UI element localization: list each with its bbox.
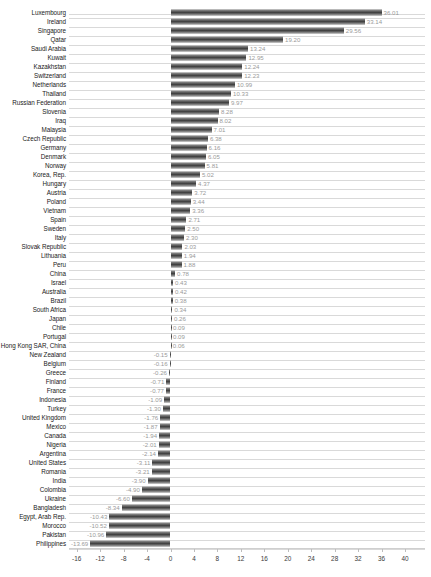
bar xyxy=(171,45,249,52)
axis-tick xyxy=(288,549,289,552)
category-label: Pakistan xyxy=(0,530,66,539)
bar xyxy=(171,180,197,187)
bar-value-label: 3.44 xyxy=(193,197,205,206)
bar xyxy=(166,378,170,385)
bar-value-label: 2.03 xyxy=(184,242,196,251)
category-label: Portugal xyxy=(0,332,66,341)
category-label: Denmark xyxy=(0,152,66,161)
bar-row: Ukraine-6.60 xyxy=(0,494,431,503)
axis-tick-label: 28 xyxy=(331,555,338,562)
category-label: Bangladesh xyxy=(0,503,66,512)
axis-tick-label: 12 xyxy=(237,555,244,562)
bar-row: Switzerland12.23 xyxy=(0,71,431,80)
bar xyxy=(148,477,171,484)
bar xyxy=(171,81,235,88)
bar xyxy=(171,333,172,340)
bar-value-label: 29.56 xyxy=(346,26,361,35)
axis-tick-label: 24 xyxy=(308,555,315,562)
category-label: Brazil xyxy=(0,296,66,305)
bar-row: Morocco-10.52 xyxy=(0,521,431,530)
bar xyxy=(160,423,171,430)
bar-row: Lithuania1.94 xyxy=(0,251,431,260)
bar-value-label: -0.77 xyxy=(150,386,164,395)
bar-row: Malaysia7.01 xyxy=(0,125,431,134)
bar xyxy=(171,261,182,268)
bar xyxy=(132,495,171,502)
category-label: Greece xyxy=(0,368,66,377)
axis-tick-label: -12 xyxy=(96,555,105,562)
bar-value-label: -10.96 xyxy=(87,530,104,539)
bar-value-label: -10.43 xyxy=(90,512,107,521)
bar-value-label: -0.15 xyxy=(154,350,168,359)
bar-row: Slovenia8.28 xyxy=(0,107,431,116)
bar xyxy=(158,450,171,457)
bar-row: Argentina-2.14 xyxy=(0,449,431,458)
bar-row: United States-3.11 xyxy=(0,458,431,467)
bar xyxy=(171,198,191,205)
plot-area: Luxembourg36.01Ireland33.14Singapore29.5… xyxy=(0,8,431,548)
bar-row: Norway5.81 xyxy=(0,161,431,170)
bar xyxy=(171,18,365,25)
axis-tick-label: 40 xyxy=(401,555,408,562)
category-label: Slovenia xyxy=(0,107,66,116)
bar-value-label: 3.36 xyxy=(192,206,204,215)
bar-value-label: 36.01 xyxy=(384,8,399,17)
bar xyxy=(171,288,173,295)
bar xyxy=(171,252,182,259)
bar xyxy=(171,234,184,241)
bar-value-label: -0.71 xyxy=(150,377,164,386)
bar-row: Kazakhstan12.24 xyxy=(0,62,431,71)
category-label: Thailand xyxy=(0,89,66,98)
category-label: Argentina xyxy=(0,449,66,458)
bar xyxy=(171,54,247,61)
axis-tick xyxy=(77,549,78,552)
bar-row: Sweden2.50 xyxy=(0,224,431,233)
bar xyxy=(171,27,344,34)
bar-value-label: -3.11 xyxy=(137,458,150,467)
bar-row: Greece-0.26 xyxy=(0,368,431,377)
bar-value-label: 2.30 xyxy=(186,233,198,242)
bar-value-label: -1.94 xyxy=(143,431,157,440)
bar xyxy=(122,504,171,511)
bar xyxy=(171,171,200,178)
bar xyxy=(171,225,186,232)
bar-row: Czech Republic6.38 xyxy=(0,134,431,143)
bar-value-label: 0.26 xyxy=(174,314,186,323)
bar xyxy=(171,342,172,349)
bar-value-label: 10.33 xyxy=(233,89,248,98)
bar-value-label: 0.43 xyxy=(175,278,187,287)
bar xyxy=(171,9,382,16)
axis-tick xyxy=(171,549,172,552)
bar-row: Hong Kong SAR, China0.06 xyxy=(0,341,431,350)
bar-value-label: 12.95 xyxy=(248,53,263,62)
bar xyxy=(171,297,173,304)
bar-row: Spain2.71 xyxy=(0,215,431,224)
axis-tick-label: 20 xyxy=(284,555,291,562)
bar-row: Romania-3.21 xyxy=(0,467,431,476)
category-label: Ukraine xyxy=(0,494,66,503)
bar xyxy=(171,207,191,214)
category-label: Spain xyxy=(0,215,66,224)
category-label: Russian Federation xyxy=(0,98,66,107)
bar-row: United Kingdom-1.76 xyxy=(0,413,431,422)
axis-tick-label: -16 xyxy=(72,555,81,562)
axis-tick xyxy=(241,549,242,552)
bar-value-label: -2.14 xyxy=(142,449,156,458)
category-label: United Kingdom xyxy=(0,413,66,422)
bar xyxy=(171,63,243,70)
category-label: Israel xyxy=(0,278,66,287)
bar-row: Denmark6.05 xyxy=(0,152,431,161)
axis-tick xyxy=(405,549,406,552)
bar-row: Saudi Arabia13.24 xyxy=(0,44,431,53)
x-axis: -16-12-8-40481216202428323640 xyxy=(0,548,431,577)
bar xyxy=(171,36,284,43)
bar-row: Hungary4.37 xyxy=(0,179,431,188)
category-label: Austria xyxy=(0,188,66,197)
bar-row: India-3.90 xyxy=(0,476,431,485)
category-label: Sweden xyxy=(0,224,66,233)
category-label: Vietnam xyxy=(0,206,66,215)
bar-row: Italy2.30 xyxy=(0,233,431,242)
bar-value-label: -6.60 xyxy=(116,494,130,503)
bar-value-label: -1.76 xyxy=(144,413,158,422)
bar xyxy=(142,486,171,493)
